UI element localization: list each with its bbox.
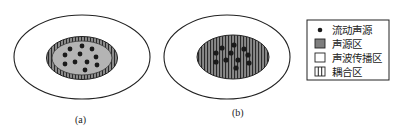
coupling-region-b [197,35,269,79]
flow-source-dot [63,53,68,58]
flow-source-dot [213,59,218,64]
flow-source-dot [90,47,95,52]
flow-source-dot [85,60,90,65]
panel-label-a: (a) [75,114,86,126]
flow-source-dot [78,52,83,57]
legend-label-propagation-region: 声波传播区 [332,52,382,64]
flow-source-dot [233,65,238,70]
flow-source-dot [83,68,88,73]
vertical-stripe-square-icon [315,67,325,76]
flow-source-dot [63,62,68,67]
flow-source-dot [73,60,78,65]
flow-source-dot [68,47,73,52]
flow-source-dot [231,42,236,47]
panel-a: (a) [14,15,150,126]
flow-source-dot [245,52,250,57]
panel-b: (b) [164,15,290,119]
flow-source-dot [241,46,246,51]
legend: 流动声源 声源区 声波传播区 耦合区 [307,20,389,80]
flow-source-dot [223,57,228,62]
legend-label-source-region: 声源区 [332,38,362,50]
flow-source-dot [228,50,233,55]
flow-source-dot [246,60,251,65]
flow-source-dot [235,57,240,62]
legend-label-coupling-region: 耦合区 [332,66,362,78]
flow-source-dot [80,44,85,49]
filled-gray-square-icon [315,39,325,48]
dot-icon [318,28,323,33]
empty-square-icon [315,53,325,62]
diagram-canvas: (a) (b) 流动声源 声源区 声波传播区 [0,0,403,131]
legend-label-flow-source: 流动声源 [332,24,373,36]
panel-label-b: (b) [232,107,244,119]
flow-source-dot [94,55,99,60]
flow-source-dot [219,45,224,50]
flow-source-dot [213,50,218,55]
flow-source-dot [95,63,100,68]
